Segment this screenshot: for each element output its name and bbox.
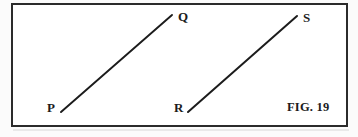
vertex-label-r: R (174, 101, 183, 114)
figure-caption: FIG. 19 (287, 101, 329, 114)
figure-19-illustration: P Q R S FIG. 19 (0, 0, 358, 137)
line-segment-pq (61, 15, 172, 112)
vertex-label-q: Q (178, 10, 188, 23)
line-segment-rs (188, 16, 297, 112)
vertex-label-p: P (47, 101, 55, 114)
vertex-label-s: S (303, 11, 310, 24)
